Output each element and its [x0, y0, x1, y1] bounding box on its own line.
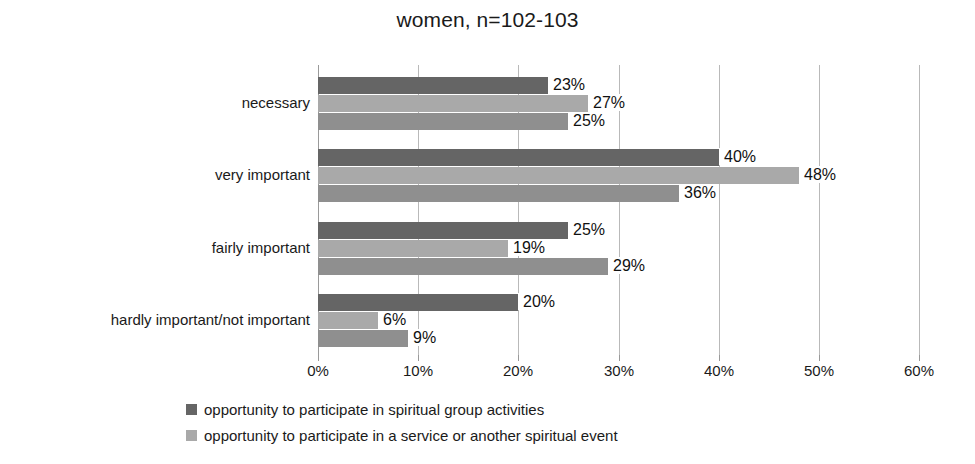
- legend-item[interactable]: opportunity to participate in spiritual …: [186, 396, 618, 422]
- bar-chart: women, n=102-103 necessaryvery important…: [0, 0, 975, 464]
- bar-value-label: 19%: [508, 239, 547, 256]
- bar-value-label: 25%: [568, 112, 607, 129]
- legend-swatch-icon: [186, 404, 197, 415]
- category-axis: necessaryvery importantfairly importanth…: [8, 65, 310, 355]
- bar: [318, 149, 719, 166]
- bar-value-label: 27%: [588, 94, 627, 111]
- legend-item[interactable]: opportunity to participate in a service …: [186, 422, 618, 448]
- chart-title: women, n=102-103: [0, 8, 975, 32]
- x-tick-mark: [318, 355, 319, 361]
- category-axis-label: necessary: [10, 94, 310, 111]
- gridline: [919, 65, 920, 355]
- bar-group: 40%48%36%: [318, 149, 919, 202]
- x-axis-tick-label: 10%: [388, 362, 448, 379]
- bar: [318, 312, 378, 329]
- bar: [318, 185, 679, 202]
- legend-swatch-icon: [186, 430, 197, 441]
- x-axis-tick-label: 40%: [689, 362, 749, 379]
- bar-value-label: 29%: [608, 257, 647, 274]
- category-axis-label: very important: [10, 166, 310, 183]
- category-axis-label: hardly important/not important: [10, 311, 310, 328]
- bar: [318, 258, 608, 275]
- legend-label: opportunity to participate in spiritual …: [204, 401, 544, 418]
- legend-label: opportunity to participate in a service …: [204, 427, 618, 444]
- x-axis-tick-label: 50%: [789, 362, 849, 379]
- bar: [318, 240, 508, 257]
- bar-value-label: 9%: [408, 329, 438, 346]
- chart-legend: opportunity to participate in spiritual …: [186, 396, 618, 448]
- bar-value-label: 20%: [518, 293, 557, 310]
- x-axis-tick-label: 30%: [589, 362, 649, 379]
- bar: [318, 77, 548, 94]
- bar-value-label: 25%: [568, 221, 607, 238]
- x-tick-mark: [919, 355, 920, 361]
- bar: [318, 330, 408, 347]
- bar-group: 23%27%25%: [318, 77, 919, 130]
- x-axis-tick-label: 20%: [488, 362, 548, 379]
- bar-group: 25%19%29%: [318, 222, 919, 275]
- bar-value-label: 48%: [799, 166, 838, 183]
- bar-group: 20%6%9%: [318, 294, 919, 347]
- plot-area: 23%27%25%40%48%36%25%19%29%20%6%9%: [318, 65, 919, 355]
- bar-value-label: 6%: [378, 311, 408, 328]
- bar-value-label: 36%: [679, 184, 718, 201]
- bar: [318, 113, 568, 130]
- x-axis-tick-label: 0%: [288, 362, 348, 379]
- bar: [318, 294, 518, 311]
- bar-value-label: 23%: [548, 76, 587, 93]
- x-tick-mark: [819, 355, 820, 361]
- x-tick-mark: [418, 355, 419, 361]
- bar: [318, 222, 568, 239]
- category-axis-label: fairly important: [10, 239, 310, 256]
- bar: [318, 167, 799, 184]
- bar-value-label: 40%: [719, 148, 758, 165]
- x-tick-mark: [719, 355, 720, 361]
- x-axis-tick-label: 60%: [889, 362, 949, 379]
- x-tick-mark: [619, 355, 620, 361]
- x-tick-mark: [518, 355, 519, 361]
- bar: [318, 95, 588, 112]
